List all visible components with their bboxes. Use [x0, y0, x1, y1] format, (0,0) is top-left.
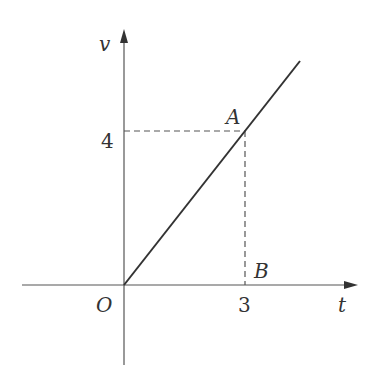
- y-tick-4: 4: [101, 129, 114, 153]
- point-b-label: B: [253, 259, 269, 283]
- x-axis-label: t: [338, 293, 347, 317]
- y-axis-label: v: [99, 32, 111, 56]
- x-axis-arrow-icon: [344, 281, 358, 289]
- x-tick-3: 3: [238, 293, 251, 317]
- velocity-line: [124, 61, 300, 285]
- velocity-time-graph: v 4 A B O 3 t: [0, 0, 372, 379]
- y-axis-arrow-icon: [120, 29, 128, 43]
- point-a-label: A: [224, 105, 240, 129]
- origin-label: O: [96, 293, 112, 317]
